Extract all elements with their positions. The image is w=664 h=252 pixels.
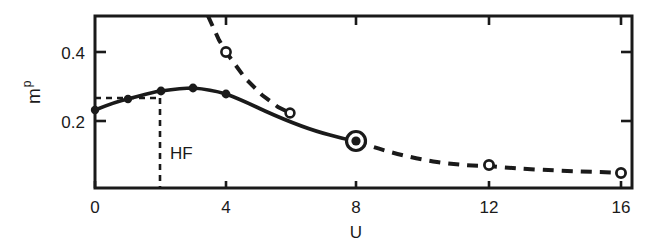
open-point-u16 (616, 168, 625, 177)
open-point-u12 (484, 160, 493, 169)
data-point-u4 (222, 90, 231, 99)
hf-annotation-label: HF (170, 144, 193, 163)
data-point-u3 (189, 84, 198, 93)
highlight-center-dot (351, 136, 360, 145)
xtick-label-4: 4 (221, 198, 230, 217)
chart-figure: 0 4 8 12 16 0.4 0.2 m p U HF (0, 0, 664, 252)
x-axis-title: U (350, 223, 362, 242)
hf-guide-lines (95, 98, 160, 188)
data-point-u1 (124, 95, 132, 103)
hf-dashed-branch (208, 16, 290, 113)
open-point-hf-u4 (221, 47, 230, 56)
y-axis-title-main: m (23, 88, 44, 104)
y-axis-title: m p (20, 80, 44, 104)
ytick-label-02: 0.2 (61, 113, 85, 132)
data-point-u2 (157, 87, 166, 96)
ytick-label-04: 0.4 (61, 44, 85, 63)
xtick-label-12: 12 (480, 198, 499, 217)
open-point-u6-crossing (286, 109, 295, 118)
highlighted-data-point (347, 132, 366, 151)
hf-dashed-curve (208, 16, 290, 113)
xtick-label-0: 0 (90, 198, 99, 217)
open-circle-markers (221, 47, 625, 177)
data-point-u0 (91, 106, 99, 114)
chart-canvas: 0 4 8 12 16 0.4 0.2 m p U HF (0, 0, 664, 252)
xtick-label-16: 16 (612, 198, 631, 217)
xtick-label-8: 8 (351, 198, 360, 217)
y-axis-title-subscript: p (20, 80, 34, 87)
